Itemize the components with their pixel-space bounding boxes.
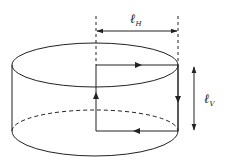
vertical-length-label: ℓV — [204, 91, 215, 108]
cylinder-bottom-back-arc — [12, 110, 178, 131]
loop-arrow-left-up — [93, 92, 99, 99]
loop-arrow-right-down — [175, 96, 181, 103]
loop-arrow-bottom-left — [133, 128, 140, 134]
cylinder-bottom-front-arc — [12, 131, 178, 156]
loop-arrow-top-right — [135, 62, 142, 68]
horizontal-length-label: ℓH — [130, 11, 142, 28]
circulation-loop — [96, 65, 178, 131]
cylinder-diagram: ℓH ℓV — [0, 0, 229, 162]
